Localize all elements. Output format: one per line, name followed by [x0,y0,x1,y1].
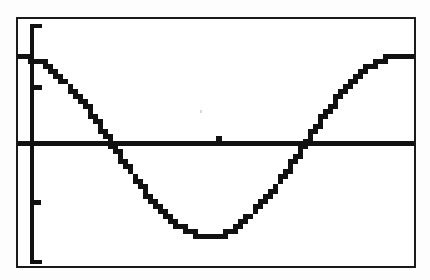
x-axis-tick-center [216,136,222,141]
y-axis-tick-positive-one [34,85,42,90]
y-axis-tick-bottom [34,260,42,264]
y-axis-tick-top [34,24,42,28]
calculator-graph-screen[interactable] [16,17,416,268]
screenshot-root [0,0,430,280]
graph-canvas[interactable] [18,19,414,266]
paper-speckle [200,110,202,113]
y-axis-tick-negative-one [34,200,41,205]
plot-area[interactable] [18,19,414,266]
x-axis-line [18,141,414,146]
